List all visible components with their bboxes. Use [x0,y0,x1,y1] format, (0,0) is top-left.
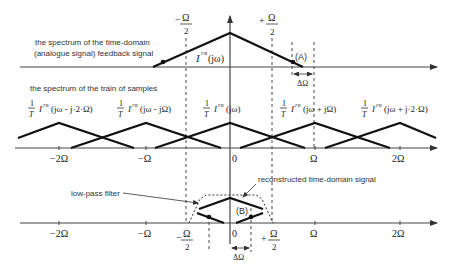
svg-text:T: T [29,110,34,119]
top-panel: the spectrum of the time-domain (analogu… [20,12,437,88]
sampling-spectrum-diagram: the spectrum of the time-domain (analogu… [0,0,455,274]
bottom-plus-sign: + [261,233,267,244]
svg-text:T: T [281,110,286,119]
top-plus-omega: Ω [268,12,275,23]
reconstructed-signal [199,198,263,209]
svg-text:(jω): (jω) [226,104,240,114]
top-caption-line2: (analogue signal) feedback signal [34,49,153,58]
bottom-tick-label-2omega: 2Ω [392,228,404,239]
delta-omega-top: ΔΩ [297,79,308,88]
svg-text:1: 1 [30,99,34,108]
svg-text:1: 1 [363,99,367,108]
replica-plus-omega [240,123,390,148]
low-pass-filter-label: low-pass filter [71,189,120,198]
top-caption-line1: the spectrum of the time-domain [35,38,150,47]
middle-panel: the spectrum of the train of samples −2Ω… [15,84,437,164]
bottom-plus-two: 2 [272,242,277,252]
bottom-tick-label-minus-omega: −Ω [138,228,151,239]
tick-label-omega: Ω [310,153,317,164]
svg-text:(jω - jΩ): (jω - jΩ) [140,104,171,114]
top-plus-two: 2 [270,27,275,37]
tick-label-2omega: 2Ω [392,153,404,164]
svg-text:(jω + jΩ): (jω + jΩ) [303,104,336,114]
bottom-tick-label-zero: 0 [232,228,237,239]
middle-caption: the spectrum of the train of samples [30,84,157,93]
bottom-tick-label-minus-2omega: −2Ω [50,228,68,239]
aliased-dot-left [207,215,212,220]
svg-text:FB: FB [294,103,301,108]
replica-label-0: 1 T I FB (jω - j·2·Ω) [28,99,93,119]
bottom-minus-two: 2 [185,242,190,252]
top-plus-sign: + [259,15,265,26]
svg-text:T: T [118,110,123,119]
replica-label-1: 1 T I FB (jω - jΩ) [117,99,171,119]
replica-label-4: 1 T I FB (jω + j·2·Ω) [361,99,428,119]
svg-text:FB: FB [375,103,382,108]
svg-text:1: 1 [119,99,123,108]
signal-label-sup: FB [200,51,207,56]
low-pass-filter-leader [123,193,198,203]
tick-label-zero: 0 [232,153,237,164]
svg-text:(jω - j·2·Ω): (jω - j·2·Ω) [51,104,93,114]
svg-text:1: 1 [282,99,286,108]
svg-text:T: T [362,110,367,119]
bottom-minus-omega: Ω [183,228,190,239]
bottom-minus-sign: − [176,232,182,243]
replica-label-2: 1 T I FB (jω) [203,99,240,119]
top-minus-two: 2 [184,26,189,36]
bottom-panel: (B) low-pass filter reconstructed time-d… [20,175,437,262]
aliased-dot-right [249,215,254,220]
analogue-spectrum-triangle [153,33,303,67]
aliasing-dot-left [161,60,166,65]
marker-a: (A) [295,52,307,62]
svg-text:(jω + j·2·Ω): (jω + j·2·Ω) [384,104,428,114]
bottom-plus-omega: Ω [270,228,277,239]
replica-label-3: 1 T I FB (jω + jΩ) [280,99,336,119]
bottom-tick-label-omega: Ω [310,228,317,239]
delta-omega-bottom: ΔΩ [233,253,244,262]
svg-text:FB: FB [131,103,138,108]
top-minus-sign: − [175,14,181,25]
signal-label-arg: (jω) [208,53,224,65]
top-minus-omega: Ω [182,12,189,23]
svg-text:1: 1 [205,99,209,108]
replica-minus-2omega [18,123,134,148]
svg-text:FB: FB [217,103,224,108]
svg-text:T: T [204,110,209,119]
tick-label-minus-omega: −Ω [138,153,151,164]
svg-text:FB: FB [42,103,49,108]
marker-b: (B) [236,206,248,216]
tick-label-minus-2omega: −2Ω [50,153,68,164]
reconstructed-label: reconstructed time-domain signal [258,175,376,184]
